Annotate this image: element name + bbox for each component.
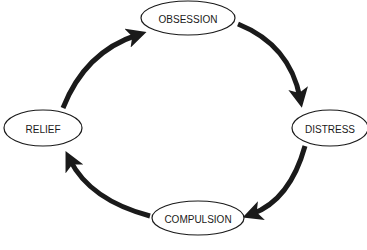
node-label: RELIEF [25, 124, 60, 135]
node-label: COMPULSION [164, 214, 231, 225]
arrow-distress-to-compulsion [252, 146, 305, 214]
cycle-diagram: OBSESSION DISTRESS COMPULSION RELIEF [0, 0, 367, 250]
arrow-compulsion-to-relief [70, 160, 150, 216]
node-obsession: OBSESSION [141, 1, 235, 35]
node-distress: DISTRESS [292, 110, 367, 146]
node-relief: RELIEF [4, 110, 82, 146]
arrow-obsession-to-distress [238, 24, 300, 98]
node-label: DISTRESS [305, 124, 355, 135]
arrow-relief-to-obsession [63, 35, 137, 108]
node-compulsion: COMPULSION [152, 201, 244, 235]
node-label: OBSESSION [159, 14, 218, 25]
